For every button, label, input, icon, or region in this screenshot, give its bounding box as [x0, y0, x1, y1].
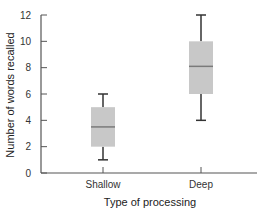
y-tick-label: 6	[25, 89, 31, 100]
x-tick-label: Shallow	[85, 179, 121, 190]
iqr-box	[189, 41, 213, 94]
y-axis: 024681012	[20, 10, 47, 179]
box-plot-chart: 024681012 ShallowDeep Number of words re…	[0, 0, 265, 219]
box-deep	[189, 15, 213, 120]
y-tick-label: 8	[25, 62, 31, 73]
box-shallow	[91, 94, 115, 160]
y-tick-label: 12	[20, 10, 32, 21]
y-tick-label: 4	[25, 115, 31, 126]
boxes	[91, 15, 213, 160]
y-tick-label: 10	[20, 36, 32, 47]
x-axis-title: Type of processing	[104, 196, 196, 208]
x-axis: ShallowDeep	[41, 167, 257, 190]
y-tick-label: 0	[25, 168, 31, 179]
y-tick-label: 2	[25, 141, 31, 152]
x-tick-label: Deep	[189, 179, 213, 190]
y-axis-title: Number of words recalled	[4, 32, 16, 157]
